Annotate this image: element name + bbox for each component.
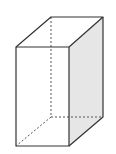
hidden-edge-bottom-depth (16, 117, 51, 146)
shaded-right-face (69, 17, 103, 146)
rectangular-prism-diagram (0, 0, 116, 154)
front-face (16, 47, 69, 146)
